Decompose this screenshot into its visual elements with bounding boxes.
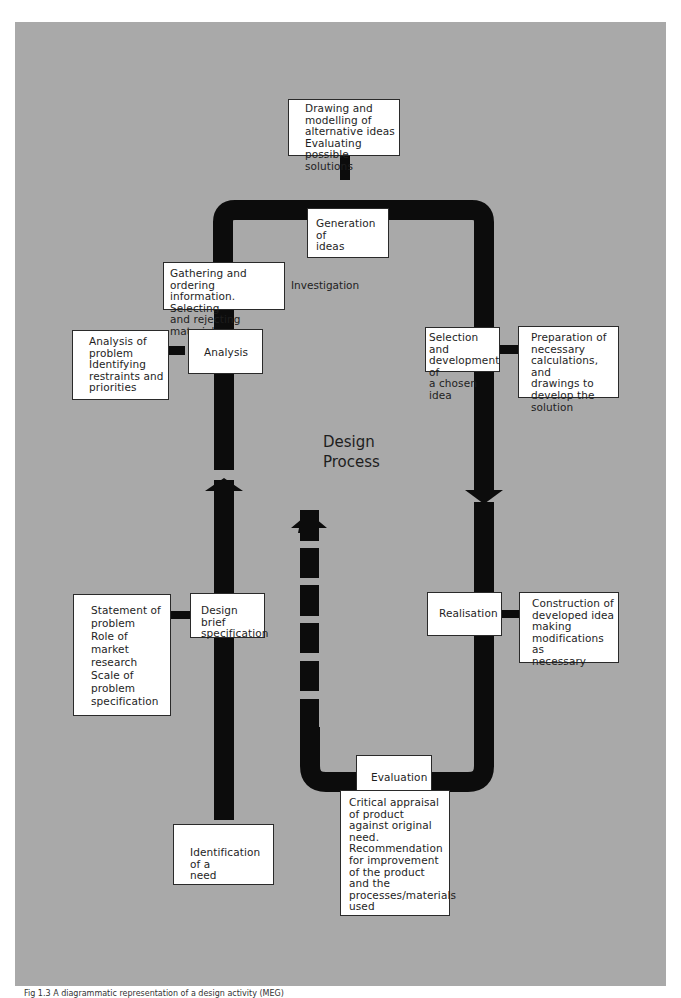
note-analysis: Analysis of problem Identifying restrain… xyxy=(72,330,169,400)
down-arrow-right-icon xyxy=(465,490,503,504)
note-generation: Drawing and modelling of alternative ide… xyxy=(288,99,400,156)
stage-label: Generation of ideas xyxy=(316,218,388,253)
investigation-label: Investigation xyxy=(291,279,359,291)
up-arrow-left-icon xyxy=(205,478,243,491)
figure-caption: Fig 1.3 A diagrammatic representation of… xyxy=(24,989,284,998)
feedback-dash xyxy=(300,661,319,691)
connector-realisation-note xyxy=(500,610,520,618)
feedback-dash xyxy=(300,548,319,578)
stage-label: Analysis xyxy=(204,347,262,359)
left-spine-lower xyxy=(214,480,234,820)
feedback-dash xyxy=(300,585,319,616)
note-text: Drawing and modelling of alternative ide… xyxy=(305,103,399,173)
note-design-brief: Statement of problem Role of market rese… xyxy=(73,594,171,716)
stage-investigation: Gathering and ordering information. Sele… xyxy=(163,262,285,310)
stage-label: Identification of a need xyxy=(190,847,273,882)
note-evaluation: Critical appraisal of product against or… xyxy=(340,790,450,916)
note-text: Analysis of problem Identifying restrain… xyxy=(89,336,168,394)
stage-generation: Generation of ideas xyxy=(307,208,389,258)
note-text: Construction of developed idea making mo… xyxy=(532,598,618,668)
stage-label: Evaluation xyxy=(371,772,431,784)
diagram-title: Design Process xyxy=(323,432,380,472)
connector-selection-note xyxy=(500,345,520,354)
connector-design-brief-note xyxy=(170,611,190,619)
stage-label: Selection and development of a chosen id… xyxy=(429,332,499,402)
evaluation-loop-path xyxy=(310,502,484,782)
stage-label: Design brief specification xyxy=(201,605,264,640)
stage-selection: Selection and development of a chosen id… xyxy=(425,327,500,372)
feedback-dash xyxy=(300,623,319,653)
stage-identification: Identification of a need xyxy=(173,824,274,885)
feedback-dash xyxy=(300,699,319,729)
note-text: Preparation of necessary calculations, a… xyxy=(531,332,618,413)
stage-label: Realisation xyxy=(439,608,501,620)
stage-design-brief: Design brief specification xyxy=(190,593,265,638)
note-selection: Preparation of necessary calculations, a… xyxy=(518,326,619,398)
note-text: Statement of problem Role of market rese… xyxy=(91,604,170,708)
stage-realisation: Realisation xyxy=(427,592,502,636)
stage-analysis: Analysis xyxy=(188,329,263,374)
note-text: Critical appraisal of product against or… xyxy=(349,797,449,913)
note-realisation: Construction of developed idea making mo… xyxy=(519,592,619,663)
stage-label: Gathering and ordering information. Sele… xyxy=(170,268,284,338)
